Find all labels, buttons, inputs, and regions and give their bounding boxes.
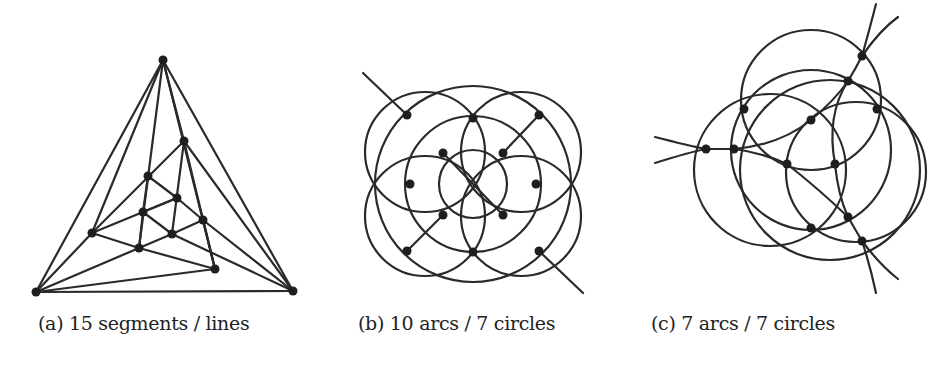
vertex-dot: [199, 216, 208, 225]
edge-segment: [143, 198, 177, 212]
circle-arc: [365, 92, 485, 212]
edge-segment: [539, 251, 583, 293]
vertex-dot: [831, 160, 840, 169]
vertex-dot: [439, 149, 448, 158]
vertex-dot: [180, 137, 189, 146]
vertex-dot: [740, 105, 749, 114]
circle-arc: [461, 156, 581, 276]
vertex-dot: [173, 194, 182, 203]
vertex-dot: [730, 145, 739, 154]
vertex-dot: [439, 211, 448, 220]
edge-segment: [148, 176, 177, 198]
vertex-dot: [135, 244, 144, 253]
vertex-dot: [469, 248, 478, 257]
edge-segment: [92, 233, 139, 248]
vertex-dot: [532, 180, 541, 189]
circle-arc: [741, 30, 881, 170]
edge-segment: [163, 60, 184, 141]
edge-segment: [139, 234, 172, 248]
edge-curve: [862, 4, 876, 56]
vertex-dot: [499, 211, 508, 220]
vertex-dot: [289, 287, 298, 296]
edge-curve: [655, 149, 706, 163]
panel-c-arc-drawing: [655, 4, 926, 293]
vertex-dot: [32, 288, 41, 297]
edge-segment: [172, 220, 203, 234]
edge-segment: [143, 212, 172, 234]
circle-arc: [731, 70, 891, 230]
caption-b: (b) 10 arcs / 7 circles: [358, 312, 555, 334]
vertex-dot: [469, 114, 478, 123]
vertex-dot: [159, 56, 168, 65]
edge-segment: [36, 291, 293, 292]
vertex-dot: [858, 52, 867, 61]
caption-c: (c) 7 arcs / 7 circles: [651, 312, 835, 334]
vertex-dot: [535, 247, 544, 256]
vertex-dot: [499, 149, 508, 158]
edge-segment: [92, 141, 184, 233]
vertex-dot: [858, 237, 867, 246]
edge-segment: [184, 141, 293, 291]
panel-b-arc-drawing: [363, 73, 583, 293]
vertex-dot: [403, 111, 412, 120]
vertex-dot: [88, 229, 97, 238]
circle-arc: [365, 156, 485, 276]
vertex-dot: [535, 111, 544, 120]
vertex-dot: [144, 172, 153, 181]
vertex-dot: [807, 224, 816, 233]
vertex-dot: [406, 180, 415, 189]
vertex-dot: [702, 145, 711, 154]
vertex-dot: [783, 160, 792, 169]
edge-curve: [832, 81, 848, 164]
vertex-dot: [168, 230, 177, 239]
vertex-dot: [873, 105, 882, 114]
edge-curve: [811, 81, 848, 120]
edge-segment: [172, 141, 184, 234]
edge-segment: [139, 248, 215, 269]
vertex-dot: [211, 265, 220, 274]
vertex-dot: [844, 213, 853, 222]
vertex-dot: [403, 247, 412, 256]
vertex-dot: [844, 77, 853, 86]
edge-segment: [163, 60, 293, 291]
circle-arc: [461, 92, 581, 212]
vertex-dot: [139, 208, 148, 217]
vertex-dot: [807, 116, 816, 125]
edge-segment: [407, 215, 443, 251]
caption-a: (a) 15 segments / lines: [38, 312, 249, 334]
edge-segment: [503, 115, 539, 153]
panel-a-line-drawing: [32, 56, 298, 297]
